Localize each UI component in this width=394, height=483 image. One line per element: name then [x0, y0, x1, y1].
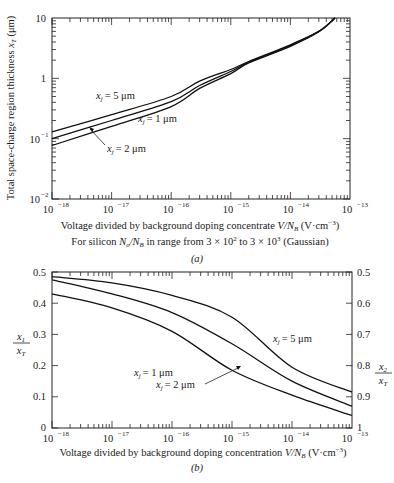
- panel-a-label-5um: xj= 5 μm: [95, 90, 135, 103]
- figure: 10 1 10 −1 10 −2 10 −18 10 −17 10 −16 10…: [0, 0, 394, 483]
- svg-text:xT: xT: [378, 375, 389, 388]
- panel-b-xtick-base: 10: [163, 433, 174, 444]
- panel-a-xtick-exp: −16: [178, 201, 189, 209]
- curve-x-j-5-m: [52, 18, 335, 132]
- panel-b-xtick-exp: −17: [118, 430, 129, 438]
- panel-a-subtitle: For silicon No/NB in range from 3 × 102 …: [71, 232, 329, 249]
- panel-a-xtick-exp: −14: [298, 201, 309, 209]
- panel-a-label-1um: xj= 1 μm: [137, 113, 177, 126]
- panel-b-ytick-right: 0.9: [357, 391, 370, 402]
- panel-a-xtick-labels: 10 −18 10 −17 10 −16 10 −15 10 −14 10 −1…: [43, 201, 369, 215]
- panel-b-xtick-base: 10: [43, 433, 54, 444]
- panel-b-ytick-right: 0.7: [357, 329, 370, 340]
- panel-b-xtick-exp: −15: [238, 430, 249, 438]
- panel-a-xtick-base: 10: [342, 204, 353, 215]
- panel-b-xtick-exp: −18: [58, 430, 69, 438]
- panel-b-ytick-labels-right: 0.5 0.6 0.7 0.8 0.9 1: [357, 267, 370, 433]
- arrow-head-icon: [89, 127, 94, 132]
- panel-b-xtick-base: 10: [283, 433, 294, 444]
- svg-text:xT: xT: [16, 345, 27, 358]
- panel-b-arrow: [205, 368, 238, 384]
- panel-a-plot-frame: [52, 18, 350, 199]
- panel-a-xtick-exp: −15: [238, 201, 249, 209]
- panel-b-ylabel-right: x2 xT: [375, 361, 392, 388]
- curve-x-j-1-m: [52, 294, 352, 416]
- panel-a-xtick-base: 10: [223, 204, 234, 215]
- panel-a-xlabel: Voltage divided by background doping con…: [61, 219, 340, 233]
- panel-b-ytick-left: 0.5: [33, 267, 46, 278]
- panel-a-label-2um: xj= 2 μm: [106, 143, 146, 156]
- panel-a-xtick-base: 10: [163, 204, 174, 215]
- panel-a-xtick-base: 10: [283, 204, 294, 215]
- panel-b-label-5um: xj= 5 μm: [272, 333, 312, 346]
- panel-b-xtick-base: 10: [342, 433, 353, 444]
- panel-b-xlabel: Voltage divided by background doping con…: [59, 446, 347, 460]
- panel-a-xtick-base: 10: [103, 204, 114, 215]
- panel-a-chart: 10 1 10 −1 10 −2 10 −18 10 −17 10 −16 10…: [5, 13, 368, 265]
- panel-b-xtick-exp: −16: [178, 430, 189, 438]
- panel-b-ylabel-left: x1 xT: [13, 331, 30, 358]
- panel-a-xtick-exp: −13: [357, 201, 368, 209]
- panel-a-ytick-0.01-exp: −2: [41, 191, 49, 199]
- arrow-head-icon: [236, 366, 241, 370]
- panel-a-ytick-0.1: 10: [30, 134, 41, 145]
- svg-text:x2: x2: [378, 361, 388, 374]
- panel-b-ytick-left: 0.3: [33, 329, 46, 340]
- panel-a-caption: (a): [191, 253, 204, 265]
- panel-a-curves: [52, 18, 335, 146]
- panel-a-ytick-10: 10: [36, 13, 47, 24]
- curve-x-j-1-m: [52, 18, 335, 139]
- panel-b-ytick-right: 0.6: [357, 298, 370, 309]
- panel-a-xtick-exp: −17: [118, 201, 129, 209]
- panel-b-xtick-base: 10: [223, 433, 234, 444]
- panel-b-xtick-exp: −14: [298, 430, 309, 438]
- panel-b-ytick-right: 0.8: [357, 360, 370, 371]
- panel-b-ytick-left: 0.1: [33, 391, 46, 402]
- panel-b-xtick-labels: 10 −18 10 −17 10 −16 10 −15 10 −14 10 −1…: [43, 430, 369, 444]
- panel-a-ytick-0.01: 10: [30, 194, 41, 205]
- panel-b-ytick-right: 0.5: [357, 267, 370, 278]
- panel-b-xtick-exp: −13: [357, 430, 368, 438]
- panel-b-ytick-left: 0.2: [33, 360, 46, 371]
- panel-b-ytick-left: 0: [41, 422, 46, 433]
- panel-b-chart: 0.5 0.4 0.3 0.2 0.1 0 0.5 0.6 0.7 0.8 0.…: [13, 267, 392, 474]
- svg-text:x1: x1: [16, 331, 25, 344]
- panel-b-xtick-base: 10: [103, 433, 114, 444]
- panel-a-xtick-exp: −18: [58, 201, 69, 209]
- panel-a-ticks: [52, 18, 350, 199]
- panel-a-ytick-1: 1: [41, 73, 46, 84]
- panel-a-xtick-base: 10: [43, 204, 54, 215]
- panel-a-ytick-0.1-exp: −1: [41, 131, 49, 139]
- panel-b-caption: (b): [191, 462, 204, 474]
- panel-b-curves: [52, 277, 352, 416]
- panel-b-ytick-left: 0.4: [33, 298, 47, 309]
- panel-b-label-2um: xj= 2 μm: [155, 379, 195, 392]
- panel-b-ytick-labels-left: 0.5 0.4 0.3 0.2 0.1 0: [33, 267, 47, 433]
- panel-a-ylabel: Total space-charge region thickness xT (…: [5, 15, 18, 200]
